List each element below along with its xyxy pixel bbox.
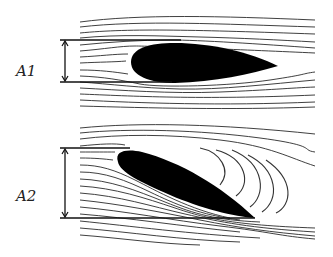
top-panel bbox=[60, 17, 315, 109]
label-a2: A2 bbox=[16, 187, 36, 205]
airfoil-diagram bbox=[0, 0, 333, 257]
diagram-canvas: A1 A2 bbox=[0, 0, 333, 257]
airfoil-top bbox=[131, 43, 278, 83]
bottom-panel bbox=[60, 125, 315, 245]
label-a1: A1 bbox=[16, 62, 36, 80]
